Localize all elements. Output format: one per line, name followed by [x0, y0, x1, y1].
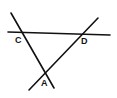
line-da [29, 18, 98, 90]
point-label-a: A [41, 78, 48, 88]
point-label-c: C [15, 35, 22, 45]
line-ca [11, 13, 54, 88]
geometry-diagram: C D A [0, 0, 117, 98]
point-label-d: D [81, 36, 88, 46]
